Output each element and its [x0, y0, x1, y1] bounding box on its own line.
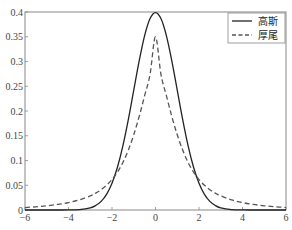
chart: 00.050.10.150.20.250.30.350.4 −6−4−20246… — [0, 0, 292, 230]
y-tick-label: 0.4 — [11, 7, 24, 18]
y-tick-label: 0.05 — [6, 180, 24, 191]
x-tick-label: −4 — [63, 212, 74, 223]
x-tick-label: 4 — [240, 212, 245, 223]
y-tick-label: 0.3 — [11, 56, 24, 67]
x-tick-label: −2 — [107, 212, 118, 223]
y-tick-label: 0.15 — [6, 130, 24, 141]
x-tick-label: 2 — [197, 212, 202, 223]
legend-label-heavy-tail: 厚尾 — [258, 30, 278, 41]
legend: 高斯 厚尾 — [228, 13, 285, 43]
x-tick-label: 6 — [284, 212, 289, 223]
y-tick-label: 0.2 — [11, 106, 24, 117]
x-tick-label: −6 — [20, 212, 31, 223]
legend-label-gaussian: 高斯 — [258, 15, 278, 27]
x-tick-label: 0 — [153, 212, 158, 223]
y-tick-label: 0.1 — [11, 155, 24, 166]
y-tick-label: 0.25 — [6, 81, 24, 92]
y-tick-label: 0.35 — [6, 31, 24, 42]
